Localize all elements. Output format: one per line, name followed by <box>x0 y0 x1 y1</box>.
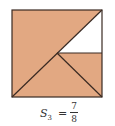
equals-sign: = <box>58 107 67 120</box>
denominator: 8 <box>71 114 77 124</box>
square-diagram <box>0 0 115 101</box>
series-symbol: S3 <box>40 107 52 122</box>
caption: S3 = 7 8 <box>0 101 115 125</box>
fraction: 7 8 <box>70 101 78 124</box>
numerator: 7 <box>71 101 77 111</box>
